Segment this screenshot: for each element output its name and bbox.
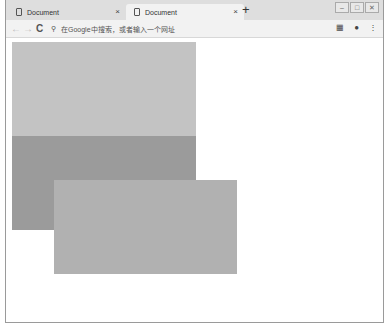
menu-icon[interactable]: ⋮ xyxy=(369,23,377,32)
extension-icon[interactable]: ▦ xyxy=(336,23,344,32)
maximize-button[interactable]: □ xyxy=(350,2,364,13)
tab-close-icon[interactable]: × xyxy=(115,7,120,16)
page-content xyxy=(6,38,383,323)
tab-title: Document xyxy=(27,9,59,16)
window-controls: – □ ✕ xyxy=(334,2,379,13)
search-icon: ⚲ xyxy=(51,25,56,33)
account-icon[interactable]: ● xyxy=(354,23,359,32)
box-1 xyxy=(12,42,196,136)
tab-title: Document xyxy=(145,9,177,16)
forward-button[interactable]: → xyxy=(23,22,33,36)
tab-document-2[interactable]: Document × xyxy=(126,4,244,20)
back-button[interactable]: ← xyxy=(11,22,21,36)
tab-close-icon[interactable]: × xyxy=(233,7,238,16)
new-tab-button[interactable]: + xyxy=(242,3,250,17)
toolbar-right-icons: ▦ ● ⋮ xyxy=(326,23,377,32)
close-window-button[interactable]: ✕ xyxy=(365,2,379,13)
tab-document-1[interactable]: Document × xyxy=(8,4,126,20)
box-3 xyxy=(54,180,237,274)
browser-toolbar: ← → C ⚲ 在Google中搜索，或者输入一个网址 ▦ ● ⋮ xyxy=(6,20,383,38)
reload-button[interactable]: C xyxy=(36,22,43,36)
minimize-button[interactable]: – xyxy=(335,2,349,13)
browser-window: Document × Document × + – □ ✕ ← → C ⚲ 在G… xyxy=(5,0,384,323)
address-bar-placeholder: 在Google中搜索，或者输入一个网址 xyxy=(61,24,175,34)
address-bar[interactable]: ⚲ 在Google中搜索，或者输入一个网址 xyxy=(51,23,321,35)
document-icon xyxy=(134,8,140,16)
document-icon xyxy=(16,8,22,16)
tab-strip: Document × Document × + – □ ✕ xyxy=(6,0,383,20)
